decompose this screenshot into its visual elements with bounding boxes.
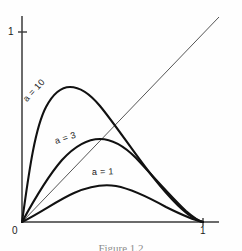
curve-a-10 xyxy=(22,87,203,222)
origin-tick-label-0: 0 xyxy=(12,226,18,236)
x-axis-tick-label-1: 1 xyxy=(200,226,206,236)
curve-annotation-a-1: a = 1 xyxy=(92,167,114,177)
plot-canvas xyxy=(0,0,242,251)
figure-caption: Figure 1.2 xyxy=(0,243,242,251)
y-axis-tick-label-1: 1 xyxy=(8,27,14,37)
diagonal-line-y-equals-x xyxy=(22,17,219,222)
figure-container: 1 0 1 a = 10 a = 3 a = 1 Figure 1.2 xyxy=(0,0,242,251)
curve-a-3 xyxy=(22,139,203,222)
